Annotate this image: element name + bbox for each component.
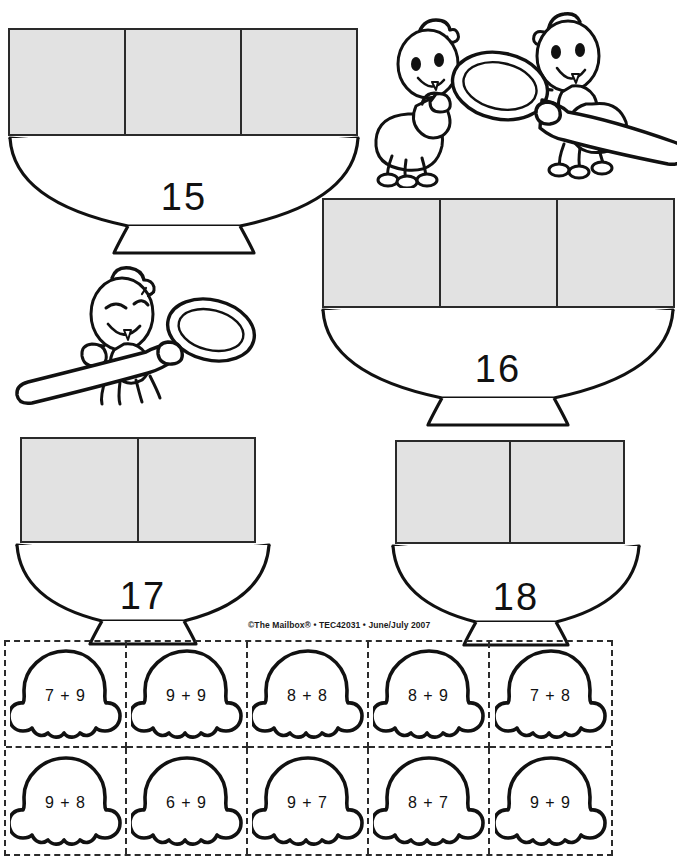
card-cell[interactable]: 9 + 9	[127, 642, 248, 748]
bowl-16: 16	[320, 198, 676, 426]
scoop-card[interactable]: 7 + 9	[6, 642, 125, 746]
bowl-17-number: 17	[14, 577, 272, 615]
bowl-15-scoop-row	[8, 28, 356, 136]
scoop-card[interactable]: 6 + 9	[127, 748, 246, 854]
card-cell[interactable]: 8 + 7	[369, 748, 490, 854]
card-cell[interactable]: 6 + 9	[127, 748, 248, 854]
bowl-17-scoop-row	[20, 437, 254, 543]
worksheet-page: 15	[0, 0, 677, 858]
card-equation: 9 + 9	[166, 687, 207, 705]
card-cell[interactable]: 9 + 9	[490, 748, 611, 854]
scoop-slot[interactable]	[240, 28, 358, 136]
card-cell[interactable]: 8 + 8	[248, 642, 369, 748]
scoop-slot[interactable]	[137, 437, 256, 543]
bowl-18-number: 18	[390, 578, 642, 616]
card-equation: 8 + 7	[408, 794, 449, 812]
ant-with-spoon-icon	[8, 258, 270, 410]
scoop-slot[interactable]	[509, 440, 625, 544]
card-cell[interactable]: 8 + 9	[369, 642, 490, 748]
scoop-slot[interactable]	[20, 437, 139, 543]
scoop-card[interactable]: 8 + 8	[248, 642, 367, 746]
bowl-15-number: 15	[8, 178, 360, 216]
bowl-15: 15	[8, 28, 360, 253]
ant-single-middle-left	[8, 258, 270, 410]
scoop-slot[interactable]	[395, 440, 511, 544]
ant-pair-top-right	[370, 8, 677, 188]
scoop-slot[interactable]	[124, 28, 242, 136]
scoop-slot[interactable]	[8, 28, 126, 136]
scoop-card[interactable]: 8 + 7	[369, 748, 488, 854]
card-equation: 7 + 9	[45, 687, 86, 705]
bowl-16-number: 16	[320, 350, 676, 388]
card-cell[interactable]: 7 + 9	[6, 642, 127, 748]
card-cell[interactable]: 9 + 8	[6, 748, 127, 854]
scoop-card[interactable]: 9 + 9	[127, 642, 246, 746]
card-equation: 9 + 8	[45, 794, 86, 812]
two-ants-with-spoon-icon	[370, 8, 677, 188]
bowl-17: 17	[14, 437, 272, 637]
card-equation: 8 + 8	[287, 687, 328, 705]
card-equation: 9 + 9	[530, 794, 571, 812]
bowl-18-scoop-row	[395, 440, 623, 544]
scoop-card[interactable]: 8 + 9	[369, 642, 488, 746]
scoop-slot[interactable]	[556, 198, 675, 308]
card-equation: 9 + 7	[287, 794, 328, 812]
cut-out-card-grid: 7 + 9 9 + 9 8 + 8	[4, 640, 613, 856]
card-cell[interactable]: 7 + 8	[490, 642, 611, 748]
card-equation: 6 + 9	[166, 794, 207, 812]
bowl-18: 18	[390, 440, 642, 640]
scoop-slot[interactable]	[322, 198, 441, 308]
scoop-card[interactable]: 9 + 9	[490, 748, 611, 854]
scoop-card[interactable]: 7 + 8	[490, 642, 611, 746]
scoop-slot[interactable]	[439, 198, 558, 308]
scoop-card[interactable]: 9 + 8	[6, 748, 125, 854]
copyright-credit: ©The Mailbox® • TEC42031 • June/July 200…	[248, 620, 430, 630]
card-equation: 8 + 9	[408, 687, 449, 705]
card-equation: 7 + 8	[530, 687, 571, 705]
bowl-16-scoop-row	[322, 198, 673, 308]
card-cell[interactable]: 9 + 7	[248, 748, 369, 854]
scoop-card[interactable]: 9 + 7	[248, 748, 367, 854]
